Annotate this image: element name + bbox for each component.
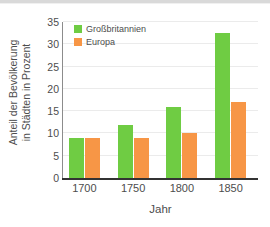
bar-grossbritannien-1850 <box>215 33 230 178</box>
x-tick-label: 1700 <box>64 182 104 194</box>
bar-grossbritannien-1700 <box>69 138 84 178</box>
bar-europa-1800 <box>182 133 197 178</box>
bar-group-1850 <box>215 22 246 178</box>
x-axis-title: Jahr <box>63 203 258 215</box>
x-tick-label: 1800 <box>162 182 202 194</box>
y-axis-title-line-1: Anteil der Bevölkerung <box>8 40 21 146</box>
x-tick-label: 1750 <box>113 182 153 194</box>
y-tick-label: 0 <box>37 172 59 184</box>
y-tick-label: 15 <box>37 105 59 117</box>
y-tick-label: 35 <box>37 16 59 28</box>
y-tick-label: 5 <box>37 150 59 162</box>
legend: GroßbritannienEuropa <box>74 23 146 47</box>
legend-label: Europa <box>86 37 115 47</box>
y-tick-label: 10 <box>37 127 59 139</box>
bar-europa-1700 <box>85 138 100 178</box>
bar-grossbritannien-1750 <box>118 125 133 178</box>
legend-swatch-icon <box>74 25 82 33</box>
y-axis-title-line-2: in Städten in Prozent <box>20 40 33 146</box>
x-axis-tick-labels: 1700175018001850 <box>63 182 258 198</box>
y-axis-tick-labels: 05101520253035 <box>36 22 59 178</box>
legend-item-grossbritannien: Großbritannien <box>74 23 146 34</box>
top-border-rule-secondary <box>0 3 270 4</box>
legend-label: Großbritannien <box>86 24 146 34</box>
plot-area: GroßbritannienEuropa <box>63 22 258 178</box>
legend-item-europa: Europa <box>74 36 146 47</box>
bar-europa-1750 <box>134 138 149 178</box>
bar-grossbritannien-1800 <box>166 107 181 178</box>
x-axis-line <box>62 178 258 180</box>
y-tick-label: 20 <box>37 83 59 95</box>
bar-chart-figure: Anteil der Bevölkerung in Städten in Pro… <box>0 0 270 227</box>
y-tick-label: 25 <box>37 61 59 73</box>
legend-swatch-icon <box>74 38 82 46</box>
bar-europa-1850 <box>231 102 246 178</box>
bar-group-1800 <box>166 22 197 178</box>
y-tick-label: 30 <box>37 38 59 50</box>
x-tick-label: 1850 <box>211 182 251 194</box>
y-axis-title: Anteil der Bevölkerung in Städten in Pro… <box>0 0 40 185</box>
